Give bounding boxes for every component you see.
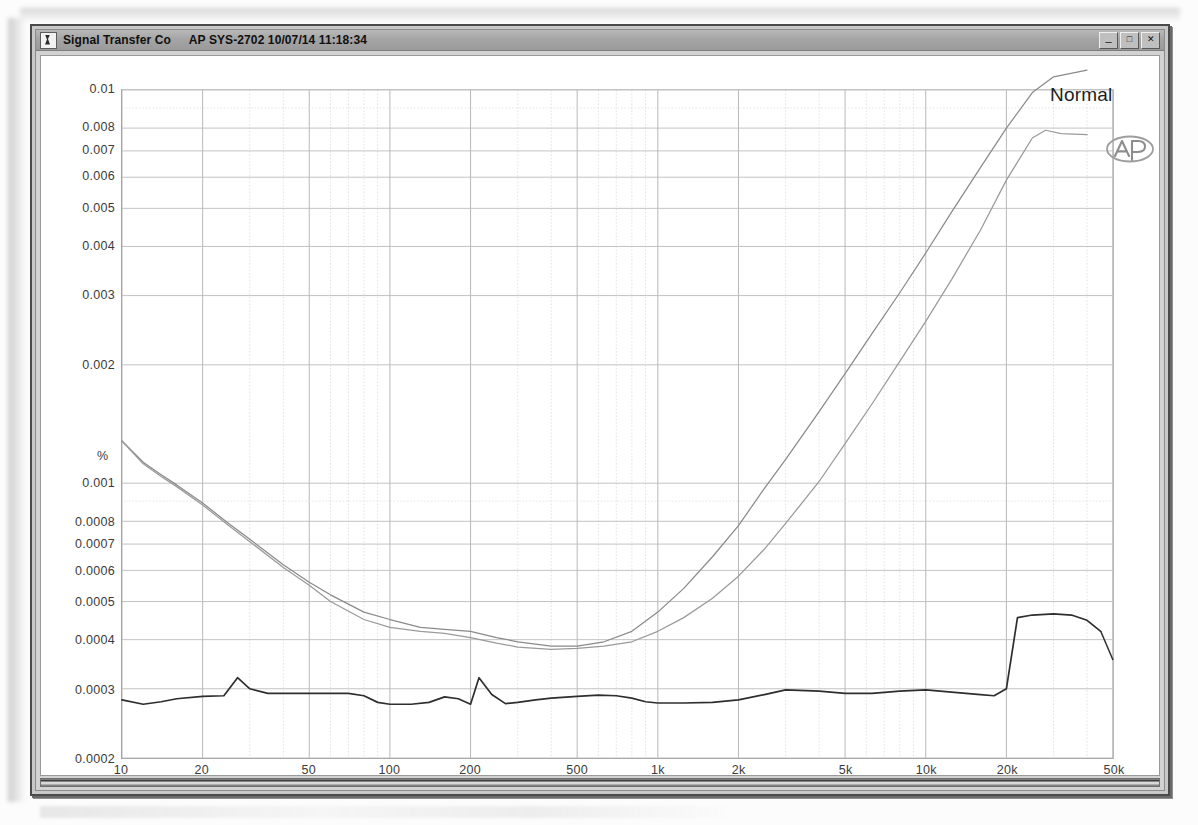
y-tick-label: 0.0007	[75, 537, 115, 551]
y-tick-label: 0.003	[82, 288, 115, 302]
x-tick-label: 10	[114, 763, 129, 776]
y-tick-label: 0.005	[82, 201, 115, 215]
y-axis-unit-label: %	[97, 449, 108, 463]
window-bottom-bevel	[40, 778, 1160, 787]
y-tick-label: 0.001	[82, 476, 115, 490]
trace-label-normal: Normal	[1050, 84, 1112, 106]
gen-leader-line	[1101, 631, 1113, 660]
window-inner-frame: Signal Transfer Co AP SYS-2702 10/07/14 …	[35, 29, 1165, 791]
y-tick-label: 0.002	[82, 358, 115, 372]
y-tick-label: 0.01	[89, 82, 115, 96]
y-tick-label: 0.0004	[75, 633, 115, 647]
y-tick-label: 0.008	[82, 120, 115, 134]
trace-normal	[122, 70, 1087, 646]
x-tick-label: 10k	[916, 763, 937, 776]
y-tick-label: 0.0008	[75, 515, 115, 529]
scan-shadow-top	[20, 8, 1180, 22]
y-tick-label: 0.0005	[75, 595, 115, 609]
x-tick-label: 50k	[1103, 763, 1124, 776]
y-tick-label: 0.0006	[75, 564, 115, 578]
y-axis-tick-labels: 0.010.0080.0070.0060.0050.0040.0030.0020…	[41, 89, 115, 759]
plot-area	[121, 89, 1114, 759]
y-tick-label: 0.004	[82, 239, 115, 253]
y-tick-label: 0.007	[82, 143, 115, 157]
y-tick-label: 0.0002	[75, 752, 115, 766]
title-bar[interactable]: Signal Transfer Co AP SYS-2702 10/07/14 …	[36, 30, 1164, 51]
x-tick-label: 2k	[732, 763, 746, 776]
plot-traces	[122, 90, 1113, 758]
y-tick-label: 0.006	[82, 169, 115, 183]
app-logo-icon	[40, 32, 57, 49]
window-controls: _ □ ✕	[1099, 32, 1162, 49]
trace-incl	[122, 130, 1087, 649]
x-tick-label: 5k	[839, 763, 853, 776]
y-tick-label: 0.0003	[75, 683, 115, 697]
window-title: Signal Transfer Co	[63, 33, 171, 47]
trace-gen	[122, 614, 1101, 704]
maximize-icon: □	[1121, 33, 1138, 46]
minimize-button[interactable]: _	[1099, 32, 1118, 49]
window-subtitle: AP SYS-2702 10/07/14 11:18:34	[189, 33, 367, 47]
close-icon: ✕	[1142, 33, 1159, 46]
x-tick-label: 1k	[651, 763, 665, 776]
x-tick-label: 100	[379, 763, 401, 776]
scan-artifact	[40, 806, 740, 818]
scan-shadow-left	[8, 18, 26, 802]
minimize-icon: _	[1100, 31, 1117, 44]
x-tick-label: 500	[566, 763, 588, 776]
application-window: Signal Transfer Co AP SYS-2702 10/07/14 …	[30, 24, 1170, 796]
x-tick-label: 200	[459, 763, 481, 776]
x-tick-label: 20k	[997, 763, 1018, 776]
x-tick-label: 50	[301, 763, 316, 776]
plot-wrapper: 0.010.0080.0070.0060.0050.0040.0030.0020…	[41, 56, 1159, 775]
x-axis-tick-labels: 1020501002005001k2k5k10k20k50k	[121, 763, 1114, 776]
x-tick-label: 20	[195, 763, 210, 776]
close-button[interactable]: ✕	[1141, 32, 1160, 49]
scanned-page: Signal Transfer Co AP SYS-2702 10/07/14 …	[0, 0, 1198, 825]
plot-client-area[interactable]: 0.010.0080.0070.0060.0050.0040.0030.0020…	[40, 55, 1160, 776]
maximize-button[interactable]: □	[1120, 32, 1139, 49]
